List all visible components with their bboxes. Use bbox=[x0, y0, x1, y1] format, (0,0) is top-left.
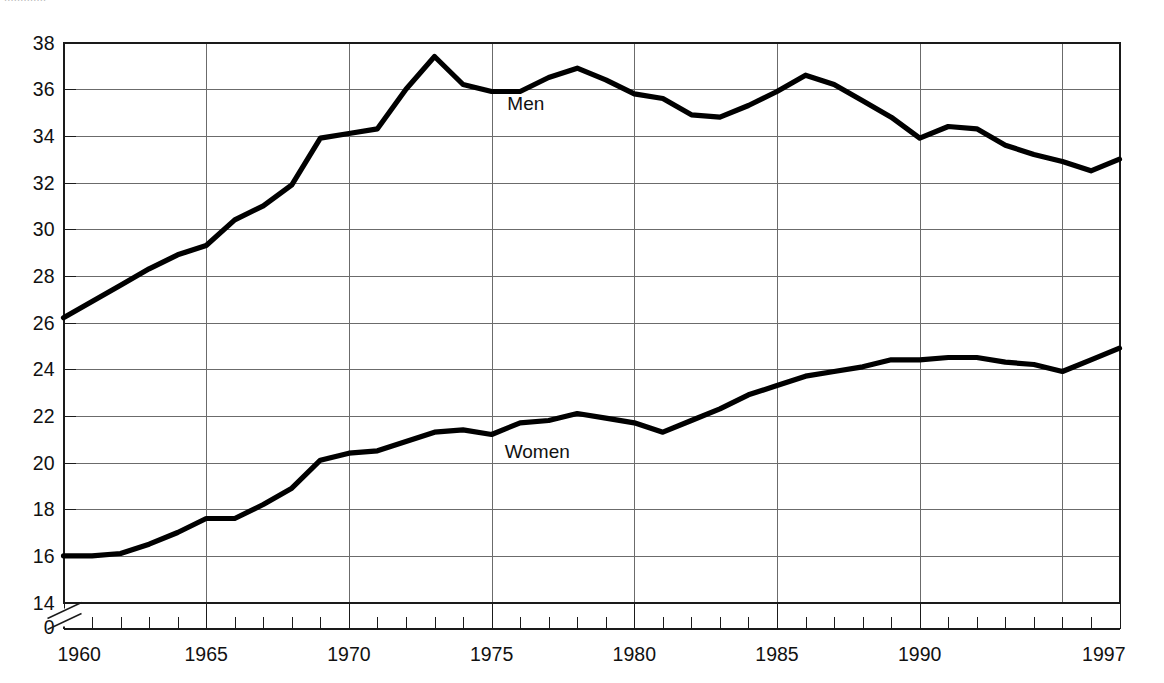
y-axis-tick-label: 24 bbox=[33, 358, 55, 380]
y-axis-ticks bbox=[64, 44, 76, 604]
line-chart: ............. 14161820222426283032343638… bbox=[0, 0, 1164, 683]
y-axis-tick-label: 26 bbox=[33, 312, 55, 334]
y-axis-tick-label: 28 bbox=[33, 265, 55, 287]
series-label-women: Women bbox=[505, 441, 570, 462]
x-axis-tick-label: 1997 bbox=[1082, 643, 1125, 665]
x-axis-labels: 19601965197019751980198519901997 bbox=[58, 643, 1126, 665]
y-axis-tick-label: 18 bbox=[33, 498, 55, 520]
y-axis-tick-label: 34 bbox=[33, 125, 55, 147]
data-series-group bbox=[64, 57, 1120, 556]
series-line-women bbox=[64, 348, 1120, 556]
x-axis-tick-label: 1960 bbox=[58, 643, 102, 665]
chart-canvas: 141618202224262830323436380 196019651970… bbox=[0, 0, 1164, 683]
x-axis-tick-label: 1990 bbox=[898, 643, 942, 665]
y-axis-tick-label: 32 bbox=[33, 172, 55, 194]
y-axis-tick-label: 22 bbox=[33, 405, 55, 427]
y-axis-tick-label: 16 bbox=[33, 545, 55, 567]
y-axis-tick-label: 30 bbox=[33, 218, 55, 240]
series-label-men: Men bbox=[507, 93, 544, 114]
y-axis-tick-label: 14 bbox=[33, 592, 55, 614]
x-axis-tick-label: 1985 bbox=[755, 643, 799, 665]
y-axis-labels: 141618202224262830323436380 bbox=[33, 32, 55, 639]
x-axis-ticks bbox=[64, 603, 1121, 629]
clipped-header-text: ............. bbox=[4, 0, 46, 2]
y-axis-tick-label: 38 bbox=[33, 32, 55, 54]
series-annotations: MenWomen bbox=[505, 93, 570, 462]
x-axis-tick-label: 1975 bbox=[470, 643, 514, 665]
y-axis-tick-label: 36 bbox=[33, 78, 55, 100]
y-axis-tick-label: 20 bbox=[33, 452, 55, 474]
x-axis-tick-label: 1965 bbox=[185, 643, 229, 665]
x-axis-tick-label: 1970 bbox=[327, 643, 371, 665]
x-axis-tick-label: 1980 bbox=[613, 643, 657, 665]
series-line-men bbox=[64, 57, 1120, 318]
